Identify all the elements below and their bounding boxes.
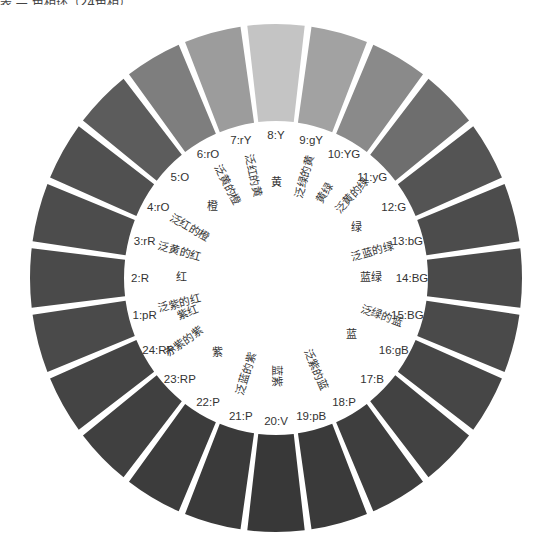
hue-code-label: 5:O	[171, 171, 190, 183]
hue-name-label: 泛黄的绿	[332, 175, 372, 217]
hue-wheel: 1:pR2:R3:rR4:rO5:O6:rO7:rY8:Y9:gY10:YG11…	[0, 0, 543, 548]
hue-name-label: 蓝紫	[270, 365, 283, 387]
hue-name-label: 蓝绿	[360, 270, 382, 284]
hue-code-label: 4:rO	[147, 201, 169, 213]
hue-segment	[247, 24, 304, 122]
hue-code-label: 2:R	[131, 272, 149, 284]
hue-name-label: 红	[176, 271, 187, 284]
hue-name-label: 黄绿	[313, 180, 336, 206]
hue-code-label: 3:rR	[134, 235, 156, 247]
hue-code-label: 12:G	[381, 201, 406, 213]
hue-segment	[247, 434, 304, 532]
hue-code-label: 8:Y	[267, 129, 285, 141]
hue-name-label: 泛蓝的紫	[233, 350, 259, 396]
hue-name-label: 泛蓝的绿	[349, 239, 395, 264]
hue-name-label: 泛紫的蓝	[301, 347, 331, 393]
hue-code-label: 10:YG	[328, 148, 361, 160]
hue-name-label: 绿	[351, 220, 362, 234]
hue-code-label: 17:B	[360, 373, 384, 385]
hue-code-label: 1:pR	[132, 309, 156, 321]
hue-code-label: 19:pB	[296, 410, 326, 422]
hue-code-label: 16:gB	[379, 344, 409, 356]
hue-code-label: 20:V	[264, 415, 288, 427]
hue-code-label: 21:P	[229, 410, 253, 422]
hue-code-label: 7:rY	[230, 134, 251, 146]
hue-name-label: 泛黄的红	[157, 239, 203, 264]
hue-code-label: 18:P	[332, 396, 356, 408]
hue-name-label: 橙	[207, 199, 218, 213]
hue-name-label: 蓝	[346, 328, 357, 341]
hue-name-label: 赤紫的紫	[162, 323, 206, 360]
hue-code-label: 6:rO	[197, 148, 219, 160]
hue-code-label: 14:BG	[396, 272, 429, 284]
hue-name-label: 紫	[212, 346, 223, 359]
hue-name-label: 泛红的黄	[242, 152, 266, 198]
hue-segment	[427, 248, 522, 307]
hue-code-label: 9:gY	[299, 134, 323, 146]
hue-code-label: 22:P	[196, 396, 220, 408]
hue-name-label: 泛红的橙	[167, 210, 212, 244]
hue-name-label: 泛绿的黄	[291, 154, 317, 200]
hue-name-label: 黄	[271, 175, 282, 189]
hue-segment	[30, 248, 125, 307]
hue-code-label: 23:RP	[164, 373, 196, 385]
hue-name-label: 泛绿的蓝	[359, 301, 405, 329]
hue-code-label: 13:bG	[392, 235, 423, 247]
